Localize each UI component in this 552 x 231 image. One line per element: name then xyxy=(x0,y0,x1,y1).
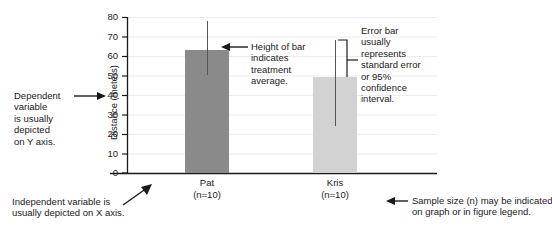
x-tick-label-pat: Pat (n=10) xyxy=(172,177,242,201)
y-tick-label: 60 xyxy=(96,50,118,61)
y-tick-label: 70 xyxy=(96,31,118,42)
y-tick-label: 30 xyxy=(96,109,118,120)
y-tick-label: 80 xyxy=(96,11,118,22)
y-axis-ticks xyxy=(122,18,127,174)
sample-size-arrow xyxy=(386,197,408,205)
annotation-bar-height: Height of bar indicates treatment averag… xyxy=(251,41,305,87)
y-tick-label: 40 xyxy=(96,89,118,100)
y-tick-label: 50 xyxy=(96,70,118,81)
y-tick-label: 0 xyxy=(96,167,118,178)
error-bar-pat xyxy=(207,21,208,75)
y-tick-label: 20 xyxy=(96,128,118,139)
annotation-dependent-variable: Dependent variable is usually depicted o… xyxy=(14,90,60,147)
annotation-independent-variable: Independent variable is usually depicted… xyxy=(12,196,124,219)
y-tick-label: 10 xyxy=(96,148,118,159)
x-tick-label-kris: Kris (n=10) xyxy=(300,177,370,201)
independent-variable-arrow xyxy=(123,184,152,205)
annotation-sample-size: Sample size (n) may be indicated on grap… xyxy=(412,195,552,218)
x-category-name: Kris xyxy=(327,177,343,188)
x-category-n: (n=10) xyxy=(193,189,221,200)
x-category-n: (n=10) xyxy=(321,189,349,200)
error-bar-kris xyxy=(335,40,336,126)
error-bar-bracket xyxy=(338,40,358,80)
x-category-name: Pat xyxy=(200,177,214,188)
annotation-error-bar: Error bar usually represents standard er… xyxy=(361,25,421,105)
